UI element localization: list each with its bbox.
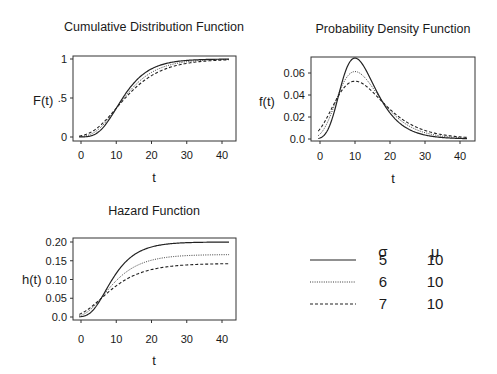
y-tick-label: 0.02 xyxy=(284,111,305,123)
y-tick-label: 0.10 xyxy=(46,274,67,286)
y-tick-label: 0.0 xyxy=(290,133,305,145)
legend-mu-value: 10 xyxy=(427,273,444,290)
pdf-title: Probability Density Function xyxy=(316,22,471,36)
curve-solid xyxy=(79,59,229,137)
curve-solid xyxy=(79,242,229,317)
y-tick-label: .5 xyxy=(58,92,67,104)
x-tick-label: 10 xyxy=(110,149,122,161)
legend-sigma-value: 7 xyxy=(379,295,387,312)
x-tick-label: 20 xyxy=(145,149,157,161)
y-tick-label: 0.20 xyxy=(46,236,67,248)
pdf-plot-frame xyxy=(311,57,475,141)
x-tick-label: 20 xyxy=(145,333,157,345)
x-tick-label: 30 xyxy=(181,333,193,345)
cdf-axis-ticks: 0102030400.51 xyxy=(58,53,228,161)
hazard-plot-frame xyxy=(73,238,236,320)
pdf-panel: Probability Density Function f(t) t 0102… xyxy=(259,22,475,186)
hazard-y-label: h(t) xyxy=(22,272,42,287)
hazard-panel: Hazard Function h(t) t 0102030400.00.050… xyxy=(22,204,236,368)
y-tick-label: 1 xyxy=(61,53,67,65)
legend-mu-value: 10 xyxy=(427,251,444,268)
y-tick-label: 0.15 xyxy=(46,255,67,267)
y-tick-label: 0 xyxy=(61,131,67,143)
y-tick-label: 0.04 xyxy=(284,89,305,101)
x-tick-label: 0 xyxy=(78,333,84,345)
legend-mu-value: 10 xyxy=(427,295,444,312)
pdf-x-label: t xyxy=(391,171,395,186)
curve-dotted xyxy=(79,59,229,136)
cdf-panel: Cumulative Distribution Function F(t) t … xyxy=(33,20,244,185)
y-tick-label: 0.06 xyxy=(284,67,305,79)
x-tick-label: 40 xyxy=(216,333,228,345)
pdf-curves xyxy=(318,58,467,139)
x-tick-label: 10 xyxy=(349,150,361,162)
cdf-y-label: F(t) xyxy=(33,93,53,108)
legend-sigma-value: 6 xyxy=(379,273,387,290)
cdf-plot-frame xyxy=(73,56,236,141)
x-tick-label: 40 xyxy=(216,149,228,161)
legend-sigma-value: 5 xyxy=(379,251,387,268)
x-tick-label: 0 xyxy=(78,149,84,161)
cdf-curves xyxy=(79,59,229,137)
curve-dashed xyxy=(79,264,229,315)
y-tick-label: 0.05 xyxy=(46,292,67,304)
cdf-title: Cumulative Distribution Function xyxy=(64,20,244,34)
x-tick-label: 30 xyxy=(419,150,431,162)
hazard-curves xyxy=(79,242,229,317)
figure: Cumulative Distribution Function F(t) t … xyxy=(0,0,497,374)
curve-dotted xyxy=(318,72,467,139)
pdf-y-label: f(t) xyxy=(259,94,275,109)
x-tick-label: 20 xyxy=(384,150,396,162)
x-tick-label: 40 xyxy=(454,150,466,162)
hazard-x-label: t xyxy=(152,353,156,368)
curve-solid xyxy=(318,58,467,139)
legend: σ μ 510610710 xyxy=(310,243,443,312)
y-tick-label: 0.0 xyxy=(52,311,67,323)
hazard-title: Hazard Function xyxy=(108,204,200,218)
legend-rows: 510610710 xyxy=(310,251,443,312)
x-tick-label: 10 xyxy=(110,333,122,345)
cdf-x-label: t xyxy=(152,170,156,185)
x-tick-label: 30 xyxy=(181,149,193,161)
x-tick-label: 0 xyxy=(317,150,323,162)
